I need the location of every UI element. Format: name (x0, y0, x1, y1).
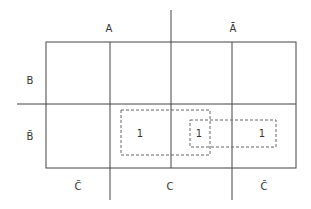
col-label-c: C (167, 181, 174, 192)
col-label-c-bar-right: C̄ (261, 180, 268, 192)
karnaugh-map: A Ā B B̄ C̄ C C̄ 1 1 1 (0, 0, 311, 209)
cell-b-bar-2: 1 (137, 128, 143, 139)
row-label-b: B (27, 75, 34, 86)
col-label-a: A (106, 23, 113, 34)
cell-b-bar-4: 1 (259, 128, 265, 139)
col-label-a-bar: Ā (230, 22, 237, 34)
cell-b-bar-3: 1 (196, 128, 202, 139)
row-label-b-bar: B̄ (27, 130, 34, 142)
col-label-c-bar-left: C̄ (75, 180, 82, 192)
